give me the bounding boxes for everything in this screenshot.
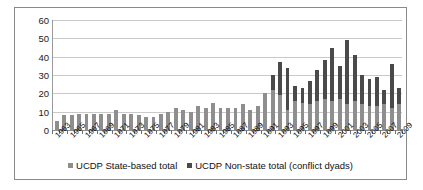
bar-segment-non-state-2004 — [360, 75, 364, 104]
bar-segment-non-state-1997 — [308, 81, 312, 105]
bar-segment-non-state-1999 — [323, 60, 327, 99]
bar-1997 — [308, 81, 312, 130]
legend-item-non-state: UCDP Non-state total (conflict dyads) — [187, 160, 353, 171]
chart-screenshot: 0102030405060 19631965196719691971197319… — [0, 0, 423, 190]
legend-swatch-icon-state-based — [68, 163, 73, 168]
chart-frame: 0102030405060 19631965196719691971197319… — [14, 7, 407, 180]
y-tick-label-30: 30 — [25, 71, 49, 80]
bar-series-group — [53, 20, 402, 130]
y-axis: 0102030405060 — [20, 20, 49, 130]
bar-segment-non-state-1995 — [293, 86, 297, 101]
bar-2003 — [353, 55, 357, 130]
bar-segment-non-state-1996 — [301, 88, 305, 103]
legend-swatch-icon-non-state — [187, 163, 192, 168]
bar-segment-non-state-1994 — [286, 68, 290, 110]
legend-item-state-based: UCDP State-based total — [68, 160, 177, 171]
bar-2009 — [397, 88, 401, 130]
bar-segment-non-state-1993 — [278, 62, 282, 95]
y-tick-label-0: 0 — [25, 126, 49, 135]
bar-segment-non-state-2006 — [375, 77, 379, 106]
y-tick-label-50: 50 — [25, 34, 49, 43]
y-tick-label-40: 40 — [25, 52, 49, 61]
y-tick-label-10: 10 — [25, 107, 49, 116]
legend-label-non-state: UCDP Non-state total (conflict dyads) — [195, 160, 353, 171]
chart-legend: UCDP State-based total UCDP Non-state to… — [15, 160, 406, 171]
bar-segment-non-state-2001 — [338, 66, 342, 99]
bar-2005 — [368, 79, 372, 130]
bar-1993 — [278, 62, 282, 130]
plot-inner — [52, 20, 402, 130]
bar-segment-non-state-2005 — [368, 79, 372, 107]
x-axis-labels: 1963196519671969197119731975197719791981… — [52, 134, 404, 162]
plot-area — [52, 20, 402, 130]
bar-2002 — [345, 40, 349, 130]
bar-segment-non-state-2008 — [390, 64, 394, 108]
bar-segment-non-state-2009 — [397, 88, 401, 105]
bar-segment-non-state-1992 — [271, 75, 275, 90]
legend-label-state-based: UCDP State-based total — [76, 160, 177, 171]
bar-2000 — [330, 48, 334, 130]
bar-segment-non-state-2003 — [353, 55, 357, 101]
bar-segment-non-state-2007 — [382, 90, 386, 105]
bar-segment-non-state-1998 — [315, 70, 319, 101]
bar-1995 — [293, 86, 297, 130]
y-tick-label-60: 60 — [25, 16, 49, 25]
bar-1999 — [323, 60, 327, 130]
bar-segment-non-state-2000 — [330, 48, 334, 101]
bar-segment-non-state-2002 — [345, 40, 349, 104]
bar-2007 — [382, 90, 386, 130]
bar-2001 — [338, 66, 342, 130]
y-tick-label-20: 20 — [25, 89, 49, 98]
